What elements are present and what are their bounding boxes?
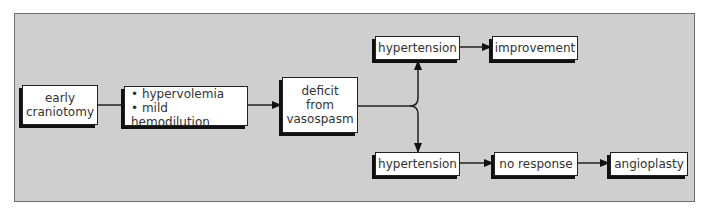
node-text: hypertension [378, 157, 457, 171]
node-angioplasty: angioplasty [610, 152, 688, 176]
node-hypertension-top: hypertension [375, 36, 460, 60]
node-hypertension-bottom: hypertension [375, 152, 460, 176]
list-item: • hypervolemia [131, 87, 224, 101]
node-text: early [45, 91, 75, 105]
node-hypervolemia-hemodilution: • hypervolemia • mild hemodilution [124, 86, 248, 126]
node-text: improvement [495, 41, 576, 55]
list-item: • mild hemodilution [131, 101, 247, 129]
node-text: no response [499, 157, 572, 171]
node-text: hypertension [378, 41, 457, 55]
node-text: vasospasm [286, 112, 353, 126]
node-deficit-from-vasospasm: deficit from vasospasm [282, 77, 358, 133]
node-early-craniotomy: early craniotomy [22, 85, 98, 125]
node-improvement: improvement [492, 36, 578, 60]
node-text: deficit [301, 84, 338, 98]
node-text: angioplasty [614, 157, 684, 171]
node-text: from [306, 98, 334, 112]
node-text: craniotomy [26, 105, 94, 119]
node-no-response: no response [494, 152, 578, 176]
